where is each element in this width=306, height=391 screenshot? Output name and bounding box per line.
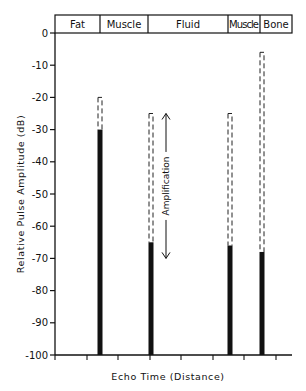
y-tick-label: -90 — [32, 317, 48, 328]
y-tick-label: -40 — [32, 156, 48, 167]
amplification-label: Amplification — [161, 156, 171, 215]
y-tick-label: -50 — [32, 189, 48, 200]
x-axis-title: Echo Time (Distance) — [111, 371, 224, 382]
axes: 0-10-20-30-40-50-60-70-80-90-100 — [25, 28, 292, 361]
echo-bars — [98, 52, 265, 355]
y-tick-label: -80 — [32, 285, 48, 296]
tissue-label: Fluid — [176, 19, 200, 30]
y-tick-label: 0 — [42, 28, 48, 39]
y-tick-label: -100 — [25, 350, 48, 361]
y-tick-label: -60 — [32, 221, 48, 232]
tissue-label: Muscle — [107, 19, 142, 30]
y-tick-label: -70 — [32, 253, 48, 264]
y-tick-label: -10 — [32, 60, 48, 71]
echo-bar-solid — [149, 242, 154, 355]
y-tick-label: -30 — [32, 124, 48, 135]
y-tick-label: -20 — [32, 92, 48, 103]
tissue-header: FatMuscleFluidMuscleBone — [55, 15, 292, 33]
y-axis-title: Relative Pulse Amplitude (dB) — [15, 115, 26, 273]
tissue-label: Fat — [70, 19, 85, 30]
echo-bar-solid — [98, 130, 103, 355]
echo-bar-solid — [228, 246, 233, 355]
tissue-label: Bone — [263, 19, 288, 30]
echo-bar-solid — [260, 252, 265, 355]
echo-amplitude-chart: FatMuscleFluidMuscleBone 0-10-20-30-40-5… — [0, 0, 306, 391]
tissue-label: Muscle — [229, 19, 259, 30]
amplification-annotation: Amplification — [160, 114, 172, 259]
